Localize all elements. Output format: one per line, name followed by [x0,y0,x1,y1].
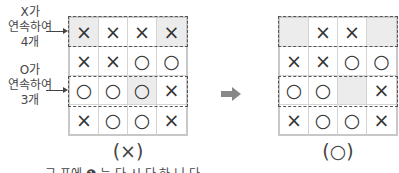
grid-cell: ○ [309,105,338,134]
grid-cell: × [99,18,128,47]
grid-cell: × [309,47,338,76]
grid-cell: ○ [128,76,157,105]
bottom-partial-text: 그 표에 ❶ 는 다 시 다 하 니 다 [45,164,200,173]
grid-cell: × [99,47,128,76]
label-x-four: X가 연속하여 4개 [4,5,56,50]
grid-cell: × [280,105,309,134]
label-line: X가 [4,5,56,20]
grid-cell: ○ [99,76,128,105]
grid-cell: ○ [338,105,367,134]
grid-cell: × [128,18,157,47]
grid-cell: × [367,105,396,134]
label-o-three: O가 연속하여 3개 [4,63,56,108]
grid-cell: × [338,18,367,47]
grid-cell: × [70,47,99,76]
grid-cell: ○ [99,105,128,134]
grid-cell: ○ [70,76,99,105]
grid-cell: × [280,47,309,76]
pointer-line [46,90,63,91]
grid-cell: ○ [338,47,367,76]
label-line: 연속하여 [4,20,56,35]
grid-cell: × [157,76,186,105]
grid-cell: × [70,105,99,134]
grid-cell: ○ [280,76,309,105]
right-grid: ××××○○○○××○○× [278,16,398,136]
left-grid: ××××××○○○○○××○○× [68,16,188,136]
grid-cell: × [70,18,99,47]
grid-cell: ○ [309,76,338,105]
grid-cell: × [157,105,186,134]
pointer-line [46,31,63,32]
left-caption: (×) [68,140,188,162]
grid-cell: × [309,18,338,47]
grid-cell [338,76,367,105]
grid-cell: × [157,18,186,47]
label-line: 4개 [4,35,56,50]
grid-cell: ○ [128,47,157,76]
right-caption: (○) [278,140,398,162]
grid-cell [280,18,309,47]
right-arrow-icon [221,87,243,101]
grid-cell: ○ [367,47,396,76]
grid-cell [367,18,396,47]
label-line: 3개 [4,93,56,108]
grid-cell: ○ [157,47,186,76]
label-line: O가 [4,63,56,78]
grid-cell: × [367,76,396,105]
grid-cell: ○ [128,105,157,134]
